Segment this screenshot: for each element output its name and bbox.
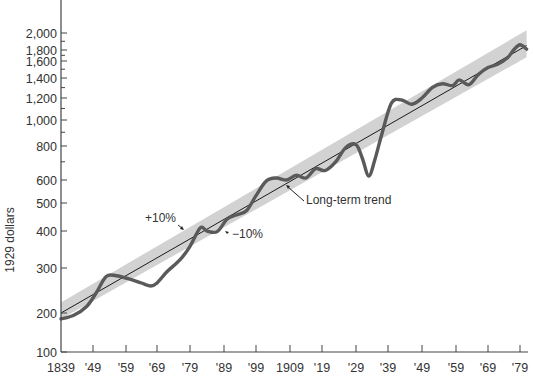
x-tick-label: '49 (414, 361, 430, 375)
x-tick-label: 1839 (47, 361, 75, 375)
annotation-minus10: −10% (225, 227, 263, 241)
y-tick-label: 500 (36, 197, 57, 211)
minus10-label: −10% (232, 227, 263, 241)
x-tick-label: '29 (348, 361, 364, 375)
x-tick-label: '79 (512, 361, 528, 375)
x-axis-ticks: 1839'49'59'69'79'89'991909'19'29'39'49'5… (47, 345, 528, 375)
y-tick-label: 2,000 (26, 27, 57, 41)
y-axis-label: 1929 dollars (3, 207, 17, 272)
annotation-plus10: +10% (145, 211, 184, 230)
y-tick-label: 600 (36, 174, 57, 188)
x-tick-label: 1909 (276, 361, 304, 375)
y-tick-label: 1,000 (26, 114, 57, 128)
x-tick-label: '99 (248, 361, 264, 375)
x-tick-label: '59 (448, 361, 464, 375)
trend-line-path (61, 46, 527, 313)
trend-line (61, 46, 527, 313)
x-tick-label: '49 (85, 361, 101, 375)
x-tick-label: '69 (149, 361, 165, 375)
x-tick-label: '69 (480, 361, 496, 375)
y-tick-label: 1,400 (26, 72, 57, 86)
y-tick-label: 400 (36, 225, 57, 239)
y-tick-label: 1,200 (26, 92, 57, 106)
x-tick-label: '59 (118, 361, 134, 375)
y-tick-label: 100 (36, 346, 57, 360)
y-tick-label: 200 (36, 307, 57, 321)
y-tick-label: 800 (36, 140, 57, 154)
plus10-label: +10% (145, 211, 176, 225)
x-tick-label: '39 (380, 361, 396, 375)
trend-label: Long-term trend (306, 193, 391, 207)
x-tick-label: '79 (182, 361, 198, 375)
chart: 1002003004005006008001,0001,2001,4001,60… (0, 0, 533, 386)
annotation-long-term-trend: Long-term trend (286, 185, 391, 207)
y-tick-label: 1,800 (26, 44, 57, 58)
y-tick-label: 300 (36, 262, 57, 276)
x-tick-label: '19 (314, 361, 330, 375)
x-tick-label: '89 (216, 361, 232, 375)
